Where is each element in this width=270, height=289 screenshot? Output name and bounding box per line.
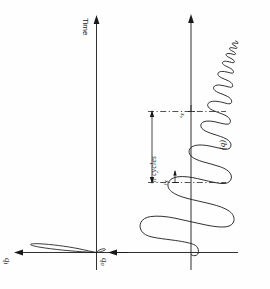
input-axis-arrow [14,250,23,256]
panel-label: (b) [220,140,229,150]
amplitude-x1-label: x1 [162,180,170,185]
amplitude-xn-label: xn [178,113,186,118]
amplitude-xn-subscript: n [179,116,184,118]
input-axis-label-subscript: i [3,263,10,265]
output-time-axis-arrow [188,14,194,23]
n-cycles-arrow-top [150,110,154,117]
time-axis-label: Time [81,18,89,35]
transient-response-figure [0,0,270,289]
n-cycles-label: n cycles [150,156,158,182]
output-axis-arrow [108,250,117,256]
output-axis-label: qo [99,258,109,266]
input-impulse-trace [30,244,105,253]
x1-amplitude-arrow [173,170,176,176]
amplitude-x1-subscript: 1 [163,183,168,185]
input-axes-group [14,15,128,270]
output-axis-label-subscript: o [100,263,107,266]
input-axis-label: qi [2,258,12,264]
input-time-axis-arrow [94,15,100,24]
